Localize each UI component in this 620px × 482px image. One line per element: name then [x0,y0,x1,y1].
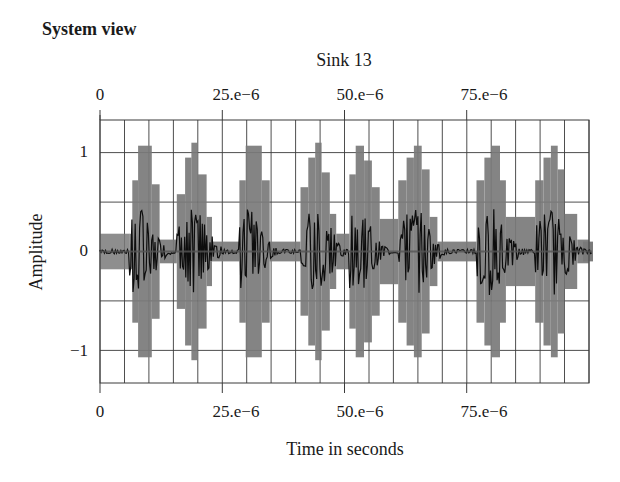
plot-area [0,0,620,482]
